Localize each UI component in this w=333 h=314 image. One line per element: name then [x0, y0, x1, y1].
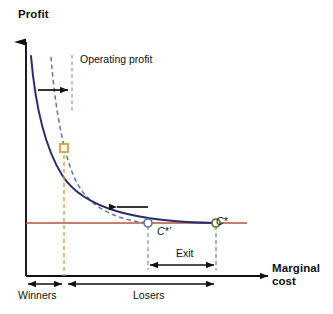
losers-label: Losers: [133, 290, 165, 302]
c-star-label: C*: [216, 216, 228, 228]
cprime-circle-marker: [144, 219, 152, 227]
x-axis-label-line1: Marginal: [272, 262, 320, 274]
winners-square-marker: [60, 144, 68, 152]
operating-profit-label: Operating profit: [80, 54, 152, 66]
exit-label: Exit: [176, 248, 194, 260]
x-axis-label-line2: cost: [272, 275, 296, 287]
c-prime-label: C*’: [157, 226, 171, 238]
dashed-profit-curve: [51, 57, 148, 223]
y-axis-label: Profit: [18, 8, 49, 21]
profit-marginal-cost-diagram: Profit Marginalcost Operating profit C*’…: [0, 0, 333, 314]
solid-profit-curve: [31, 56, 216, 223]
winners-label: Winners: [18, 290, 57, 302]
x-axis-label: Marginalcost: [272, 262, 320, 288]
